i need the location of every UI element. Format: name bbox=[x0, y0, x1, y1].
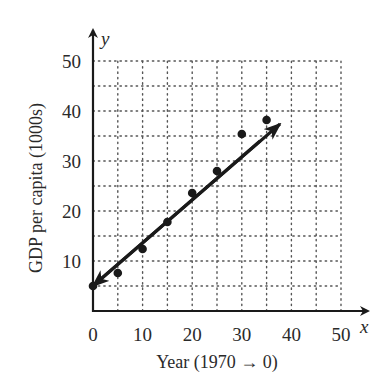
data-point bbox=[163, 218, 172, 227]
y-tick-label: 50 bbox=[62, 51, 81, 72]
data-point bbox=[89, 282, 98, 291]
y-axis-label: GDP per capita (1000s) bbox=[26, 103, 47, 273]
data-point bbox=[114, 269, 123, 278]
x-tick-label: 20 bbox=[183, 324, 202, 345]
x-tick-label: 50 bbox=[332, 324, 351, 345]
data-point bbox=[138, 245, 147, 254]
scatter-chart: 010203040501020304050 x y Year (1970 → 0… bbox=[0, 0, 387, 386]
data-point bbox=[188, 189, 197, 198]
tick-labels: 010203040501020304050 bbox=[62, 51, 351, 345]
axes bbox=[93, 30, 368, 312]
y-tick-label: 10 bbox=[62, 251, 81, 272]
x-tick-label: 0 bbox=[88, 324, 98, 345]
grid-lines bbox=[93, 61, 341, 311]
x-tick-label: 10 bbox=[133, 324, 152, 345]
x-tick-label: 30 bbox=[232, 324, 251, 345]
y-axis-variable: y bbox=[99, 28, 110, 49]
x-tick-label: 40 bbox=[282, 324, 301, 345]
y-tick-label: 30 bbox=[62, 151, 81, 172]
trend-line bbox=[93, 124, 280, 286]
x-axis-label: Year (1970 → 0) bbox=[156, 352, 278, 373]
data-point bbox=[238, 130, 247, 139]
x-axis-variable: x bbox=[359, 316, 369, 337]
data-point bbox=[262, 116, 271, 125]
y-tick-label: 40 bbox=[62, 101, 81, 122]
data-point bbox=[213, 167, 222, 176]
y-tick-label: 20 bbox=[62, 201, 81, 222]
